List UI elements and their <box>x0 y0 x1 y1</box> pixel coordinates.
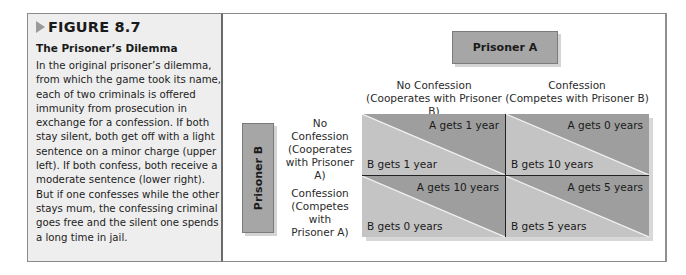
caption-panel: FIGURE 8.7 The Prisoner’s Dilemma In the… <box>27 13 223 262</box>
row-header-no-confession: No Confession (Cooperates with Prisoner … <box>280 117 360 182</box>
payoff-a: A gets 10 years <box>417 181 499 193</box>
prisoner-a-text: Prisoner A <box>473 41 537 54</box>
payoff-cell: A gets 5 years B gets 5 years <box>506 176 649 237</box>
payoff-b: B gets 10 years <box>511 158 593 170</box>
row-header-line: with Prisoner A) <box>280 156 360 182</box>
row-header-line: (Competes with <box>280 200 360 226</box>
payoff-a: A gets 5 years <box>568 181 643 193</box>
payoff-b: B gets 0 years <box>367 220 443 232</box>
payoff-a: A gets 0 years <box>568 119 643 131</box>
col-header-line: No Confession <box>362 79 506 92</box>
row-header-line: Confession <box>280 130 360 143</box>
row-header-line: Prisoner A) <box>280 226 360 239</box>
triangle-arrow-icon <box>36 21 45 33</box>
row-header-confession: Confession (Competes with Prisoner A) <box>280 187 360 239</box>
grid-divider-horizontal <box>362 175 649 176</box>
col-header-line: (Competes with Prisoner B) <box>505 92 649 105</box>
figure-caption: In the original prisoner’s dilemma, from… <box>36 59 222 245</box>
col-header-line: Confession <box>505 79 649 92</box>
figure-title: The Prisoner’s Dilemma <box>36 42 177 54</box>
row-header-line: (Cooperates <box>280 143 360 156</box>
payoff-a: A gets 1 year <box>429 119 499 131</box>
prisoner-a-label: Prisoner A <box>452 31 558 64</box>
figure-number: FIGURE 8.7 <box>48 19 141 35</box>
figure-label: FIGURE 8.7 <box>36 19 141 35</box>
payoff-cell: A gets 10 years B gets 0 years <box>362 176 505 237</box>
prisoner-b-text: Prisoner B <box>252 146 265 210</box>
payoff-b: B gets 5 years <box>511 220 587 232</box>
row-header-line: Confession <box>280 187 360 200</box>
payoff-b: B gets 1 year <box>367 158 437 170</box>
column-header-confession: Confession (Competes with Prisoner B) <box>505 79 649 105</box>
column-header-no-confession: No Confession (Cooperates with Prisoner … <box>362 79 506 118</box>
prisoner-b-label: Prisoner B <box>242 123 274 233</box>
payoff-cell: A gets 0 years B gets 10 years <box>506 114 649 175</box>
payoff-matrix: A gets 1 year B gets 1 year A gets 0 yea… <box>362 114 649 237</box>
row-header-line: No <box>280 117 360 130</box>
payoff-cell: A gets 1 year B gets 1 year <box>362 114 505 175</box>
